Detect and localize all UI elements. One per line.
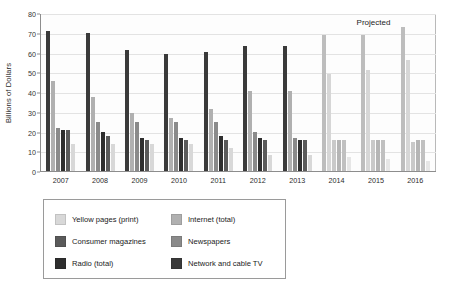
bar — [303, 140, 307, 171]
bar — [322, 35, 326, 172]
bar — [179, 138, 183, 171]
legend-item: Network and cable TV — [171, 258, 285, 269]
legend-swatch — [55, 236, 66, 247]
bar — [342, 140, 346, 171]
bar-group-2014: 2014 — [317, 15, 356, 171]
bar — [248, 91, 252, 171]
x-tick-label: 2015 — [368, 176, 384, 185]
bar — [204, 52, 208, 171]
bar — [406, 60, 410, 171]
x-axis-line — [40, 171, 436, 172]
bar — [130, 113, 134, 172]
legend-item: Internet (total) — [171, 214, 285, 225]
y-tick-label: 20 — [18, 128, 36, 137]
legend-label: Yellow pages (print) — [72, 215, 138, 224]
y-axis-title: Billions of Dollars — [2, 14, 14, 172]
y-tick-label: 70 — [18, 29, 36, 38]
x-tick-label: 2010 — [171, 176, 187, 185]
legend-label: Network and cable TV — [188, 259, 263, 268]
legend-swatch — [171, 236, 182, 247]
bar — [86, 33, 90, 171]
legend-swatch — [171, 258, 182, 269]
bar — [219, 136, 223, 171]
bar — [91, 97, 95, 171]
bar — [169, 118, 173, 171]
bar — [411, 142, 415, 171]
bar — [421, 140, 425, 171]
bar — [111, 144, 115, 171]
x-tick-label: 2008 — [92, 176, 108, 185]
bar — [214, 122, 218, 171]
bar — [164, 54, 168, 171]
bar — [416, 140, 420, 171]
bar — [327, 74, 331, 172]
bar — [51, 81, 55, 171]
bar — [288, 91, 292, 171]
bar — [189, 144, 193, 171]
x-tick-label: 2016 — [407, 176, 423, 185]
bar — [263, 140, 267, 171]
bar — [308, 155, 312, 171]
x-tick-label: 2014 — [329, 176, 345, 185]
bar — [46, 31, 50, 171]
legend-item: Newspapers — [171, 236, 285, 247]
bar — [366, 70, 370, 171]
bar — [150, 144, 154, 171]
bar — [140, 138, 144, 171]
bar — [66, 130, 70, 171]
bar — [209, 109, 213, 171]
y-tick-label: 80 — [18, 10, 36, 19]
chart-figure: Billions of Dollars 01020304050607080 20… — [0, 0, 452, 297]
x-tick-label: 2012 — [250, 176, 266, 185]
x-tick-label: 2011 — [211, 176, 226, 185]
x-tick-label: 2009 — [132, 176, 148, 185]
legend-label: Consumer magazines — [72, 237, 146, 246]
bar — [283, 46, 287, 171]
bar — [376, 140, 380, 171]
bar-group-2011: 2011 — [199, 15, 238, 171]
bar — [243, 46, 247, 171]
bar — [61, 130, 65, 171]
bar — [101, 132, 105, 171]
bar — [268, 155, 272, 171]
legend-swatch — [171, 214, 182, 225]
bar — [229, 148, 233, 171]
legend-item: Radio (total) — [55, 258, 171, 269]
bar — [71, 144, 75, 171]
bar-group-2007: 2007 — [41, 15, 80, 171]
legend-swatch — [55, 258, 66, 269]
bar — [145, 140, 149, 171]
bar-group-2013: 2013 — [277, 15, 316, 171]
legend-item: Yellow pages (print) — [55, 214, 171, 225]
y-tick-label: 30 — [18, 108, 36, 117]
bar-group-2015: 2015 — [356, 15, 395, 171]
plot-area: 01020304050607080 2007200820092010201120… — [40, 14, 436, 172]
bar — [337, 140, 341, 171]
bar — [381, 140, 385, 171]
legend-label: Newspapers — [188, 237, 230, 246]
legend-label: Radio (total) — [72, 259, 113, 268]
bar — [371, 140, 375, 171]
bar — [426, 161, 430, 171]
bar-groups: 2007200820092010201120122013201420152016 — [41, 15, 435, 171]
bar-group-2008: 2008 — [80, 15, 119, 171]
bar — [332, 140, 336, 171]
bar-group-2016: 2016 — [396, 15, 435, 171]
y-tick-label: 60 — [18, 49, 36, 58]
bar — [125, 50, 129, 171]
bar — [361, 35, 365, 172]
bar — [224, 140, 228, 171]
bar — [401, 27, 405, 171]
bar — [184, 140, 188, 171]
bar-group-2009: 2009 — [120, 15, 159, 171]
bar — [258, 138, 262, 171]
y-tick-label: 40 — [18, 89, 36, 98]
bar — [293, 138, 297, 171]
x-tick-label: 2007 — [53, 176, 69, 185]
projected-annotation: Projected — [357, 18, 391, 27]
bar — [56, 128, 60, 171]
legend-label: Internet (total) — [188, 215, 235, 224]
bar — [347, 157, 351, 171]
bar — [135, 122, 139, 171]
legend-swatch — [55, 214, 66, 225]
